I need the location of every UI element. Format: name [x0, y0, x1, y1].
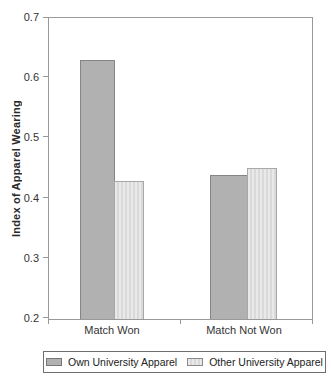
bar-other-university-apparel-match-not-won	[247, 168, 277, 319]
x-tick-mark	[312, 320, 313, 324]
legend-swatch-other-university	[187, 358, 203, 366]
y-tick-label: 0.6	[0, 71, 39, 83]
bar-own-university-apparel-match-won	[80, 60, 115, 319]
bar-group-match-not-won	[210, 168, 277, 319]
legend-entry-own-university: Own University Apparel	[46, 356, 177, 368]
x-tick-mark	[48, 320, 49, 324]
y-axis-tick-labels: 0.70.60.50.40.30.2	[0, 17, 43, 320]
y-tick-label: 0.7	[0, 11, 39, 23]
bar-group-match-won	[80, 60, 144, 319]
x-category-label-match-won: Match Won	[52, 324, 172, 336]
y-tick-label: 0.5	[0, 131, 39, 143]
y-tick-label: 0.4	[0, 192, 39, 204]
legend-entry-other-university: Other University Apparel	[187, 356, 323, 368]
y-tick-label: 0.2	[0, 312, 39, 324]
y-tick-label: 0.3	[0, 252, 39, 264]
x-tick-mark	[180, 320, 181, 324]
x-category-label-match-not-won: Match Not Won	[184, 324, 304, 336]
plot-area	[48, 17, 313, 320]
legend-label-other-university: Other University Apparel	[209, 356, 323, 368]
bar-own-university-apparel-match-not-won	[210, 175, 248, 319]
legend: Own University Apparel Other University …	[43, 351, 326, 373]
legend-label-own-university: Own University Apparel	[68, 356, 177, 368]
bar-chart-figure: Index of Apparel Wearing 0.70.60.50.40.3…	[0, 0, 331, 386]
legend-swatch-own-university	[46, 358, 62, 366]
bar-other-university-apparel-match-won	[114, 181, 144, 319]
